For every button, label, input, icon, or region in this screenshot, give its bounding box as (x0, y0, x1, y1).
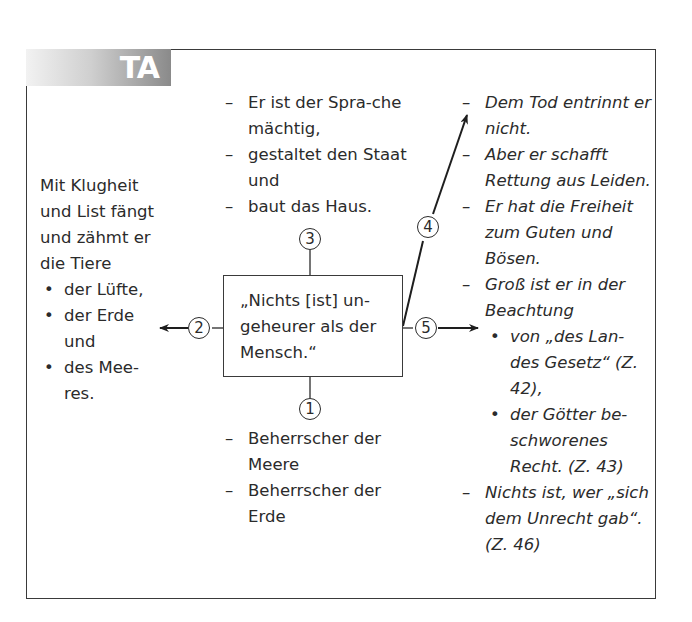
right-list-item: Nichts ist, wer „sich dem Unrecht gab“. … (462, 480, 652, 558)
right-subitem: von „des Lan-des Gesetz“ (Z. 42), (462, 324, 640, 402)
right-item4-intro: Groß ist er in der Beachtung (485, 275, 625, 320)
left-intro: Mit Klugheit und List fängt und zähmt er… (40, 173, 170, 277)
center-quote-box: „Nichts [ist] un-geheurer als der Mensch… (223, 275, 403, 377)
right-list-item: Er hat die Freiheit zum Guten und Bösen. (462, 194, 652, 272)
arrow-4-lower (403, 241, 423, 326)
right-list: Dem Tod entrinnt er nicht. Aber er schaf… (462, 90, 652, 558)
marker-2: 2 (188, 317, 210, 339)
right-list-item: Aber er schafft Rettung aus Leiden. (462, 142, 652, 194)
top-list-item: baut das Haus. (225, 194, 410, 220)
bottom-list: Beherrscher der Meere Beherrscher der Er… (225, 426, 410, 530)
marker-3: 3 (299, 228, 321, 250)
top-list-item: gestaltet den Staat und (225, 142, 410, 194)
right-subitem: der Götter be-schworenes Recht. (Z. 43) (462, 402, 640, 480)
top-list-item: Er ist der Spra-che mächtig, (225, 90, 410, 142)
left-item: des Mee-res. (40, 355, 145, 407)
right-list-item: Dem Tod entrinnt er nicht. (462, 90, 652, 142)
left-item: der Erde und (40, 303, 145, 355)
center-quote: „Nichts [ist] un-geheurer als der Mensch… (240, 288, 400, 366)
bottom-list-item: Beherrscher der Meere (225, 426, 410, 478)
marker-1: 1 (299, 398, 321, 420)
top-list: Er ist der Spra-che mächtig, gestaltet d… (225, 90, 410, 220)
marker-5: 5 (415, 317, 437, 339)
marker-4: 4 (417, 216, 439, 238)
left-block: Mit Klugheit und List fängt und zähmt er… (40, 173, 170, 407)
right-list-item: Groß ist er in der Beachtung von „des La… (462, 272, 652, 480)
bottom-list-item: Beherrscher der Erde (225, 478, 410, 530)
left-item: der Lüfte, (40, 277, 145, 303)
